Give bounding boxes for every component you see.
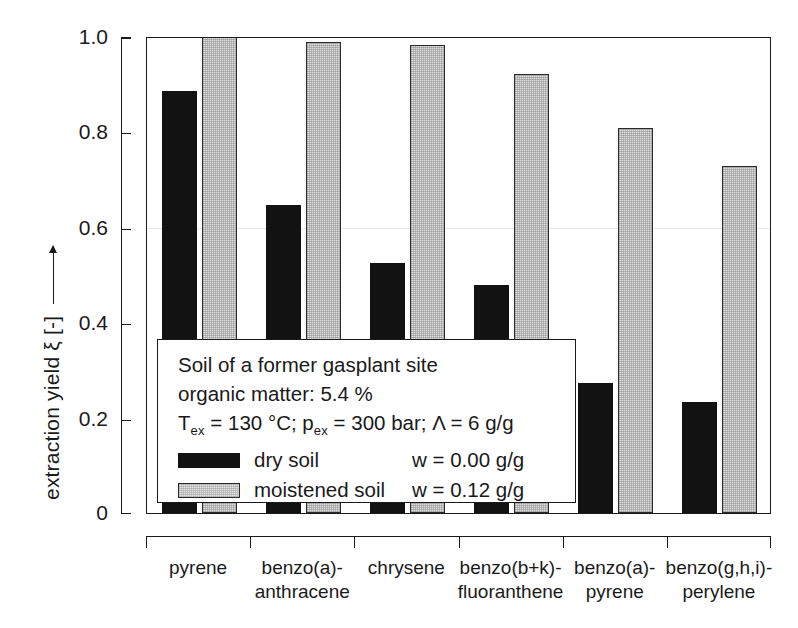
category-tick bbox=[459, 537, 460, 548]
category-label-line: chrysene bbox=[346, 556, 466, 580]
legend-value-moistened-soil: w = 0.12 g/g bbox=[412, 478, 524, 502]
category-label: chrysene bbox=[346, 556, 466, 580]
legend-temp-symbol: T bbox=[178, 411, 191, 434]
legend-label-moistened-soil: moistened soil bbox=[254, 478, 385, 502]
y-tick-0.2 bbox=[122, 420, 131, 421]
legend-swatch-dry-soil bbox=[178, 453, 240, 468]
y-tick-0.8 bbox=[122, 133, 131, 134]
category-label-line: fluoranthene bbox=[451, 580, 571, 604]
bar-moistened-soil bbox=[618, 128, 653, 513]
y-tick-label-0.6: 0.6 bbox=[44, 216, 108, 240]
legend-line-3: Tex = 130 °C; pex = 300 bar; Λ = 6 g/g bbox=[178, 408, 575, 445]
y-tick-0.4 bbox=[122, 324, 131, 325]
category-label-line: pyrene bbox=[138, 556, 258, 580]
bar-dry-soil bbox=[578, 383, 613, 513]
category-axis bbox=[146, 536, 771, 547]
y-tick-label-0.2: 0.2 bbox=[44, 407, 108, 431]
chart-figure: extraction yield ξ [-] 1.0 0.8 0.6 0.4 0… bbox=[0, 0, 798, 628]
y-axis-label: extraction yield ξ [-] bbox=[40, 246, 64, 500]
legend-value-dry-soil: w = 0.00 g/g bbox=[412, 448, 524, 472]
legend-row-moistened-soil: moistened soil w = 0.12 g/g bbox=[178, 475, 575, 505]
category-labels: pyrenebenzo(a)-anthracenechrysenebenzo(b… bbox=[146, 556, 771, 616]
category-label-line: perylene bbox=[659, 580, 779, 604]
category-label: pyrene bbox=[138, 556, 258, 580]
category-label-line: pyrene bbox=[555, 580, 675, 604]
legend-temp-value: = 130 °C; p bbox=[205, 411, 314, 434]
legend-pressure-value: = 300 bar; Λ = 6 g/g bbox=[328, 411, 514, 434]
category-tick bbox=[667, 537, 668, 548]
category-tick bbox=[354, 537, 355, 548]
y-axis-label-container: extraction yield ξ [-] bbox=[0, 0, 52, 520]
legend-line-2: organic matter: 5.4 % bbox=[178, 379, 575, 408]
bar-dry-soil bbox=[682, 402, 717, 513]
y-tick-label-1.0: 1.0 bbox=[44, 25, 108, 49]
legend-pressure-subscript: ex bbox=[314, 423, 328, 438]
category-label: benzo(a)-anthracene bbox=[242, 556, 362, 604]
y-axis-arrow-icon bbox=[53, 246, 54, 304]
category-tick bbox=[563, 537, 564, 548]
category-label-line: anthracene bbox=[242, 580, 362, 604]
bar-moistened-soil bbox=[722, 166, 757, 513]
y-tick-1.0 bbox=[122, 38, 131, 39]
category-label: benzo(g,h,i)-perylene bbox=[659, 556, 779, 604]
category-label-line: benzo(a)- bbox=[555, 556, 675, 580]
category-label: benzo(b+k)-fluoranthene bbox=[451, 556, 571, 604]
y-tick-label-0: 0 bbox=[44, 501, 108, 525]
legend-temp-subscript: ex bbox=[191, 423, 205, 438]
gridline-0.6 bbox=[147, 228, 770, 229]
y-tick-label-0.4: 0.4 bbox=[44, 311, 108, 335]
y-axis bbox=[121, 37, 131, 514]
legend-label-dry-soil: dry soil bbox=[254, 448, 319, 472]
y-tick-0 bbox=[122, 513, 131, 514]
category-tick bbox=[770, 537, 771, 548]
category-tick bbox=[250, 537, 251, 548]
category-label-line: benzo(g,h,i)- bbox=[659, 556, 779, 580]
legend-box: Soil of a former gasplant site organic m… bbox=[157, 339, 576, 503]
y-tick-label-0.8: 0.8 bbox=[44, 120, 108, 144]
category-label-line: benzo(b+k)- bbox=[451, 556, 571, 580]
category-tick bbox=[146, 537, 147, 548]
legend-row-dry-soil: dry soil w = 0.00 g/g bbox=[178, 445, 575, 475]
legend-swatch-moistened-soil bbox=[178, 483, 240, 498]
legend-line-1: Soil of a former gasplant site bbox=[178, 350, 575, 379]
category-label-line: benzo(a)- bbox=[242, 556, 362, 580]
y-tick-0.6 bbox=[122, 229, 131, 230]
category-label: benzo(a)-pyrene bbox=[555, 556, 675, 604]
